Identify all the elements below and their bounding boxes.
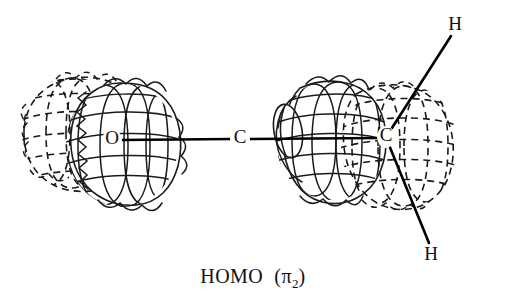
bond-carbon-carbon	[250, 138, 378, 139]
atom-label-hydrogen-top-text: H	[448, 13, 462, 34]
orbital-lobe-oxygen-front	[66, 78, 187, 210]
atom-label-carbon-center: C	[230, 126, 250, 150]
atom-label-carbon-right: C	[377, 124, 395, 148]
figure-caption: HOMO (π2)	[0, 265, 506, 292]
atom-label-hydrogen-bottom: H	[424, 243, 438, 264]
atom-label-hydrogen-top: H	[448, 13, 462, 34]
caption-homo-text: HOMO	[200, 265, 263, 287]
caption-paren-close: )	[299, 265, 306, 287]
caption-pi-symbol: π	[282, 265, 293, 287]
molecular-orbital-figure: O C C H H	[0, 0, 506, 302]
caption-paren-open: (	[274, 265, 281, 287]
atom-label-hydrogen-bottom-text: H	[424, 243, 438, 264]
orbital-lobe-carbon-front	[270, 76, 387, 206]
atom-label-carbon-center-text: C	[234, 126, 247, 147]
atom-label-oxygen-text: O	[105, 127, 119, 148]
bond-carbon-hydrogen-bottom	[389, 145, 429, 243]
atom-label-carbon-right-text: C	[380, 124, 393, 145]
bond-oxygen-carbon	[120, 139, 232, 140]
